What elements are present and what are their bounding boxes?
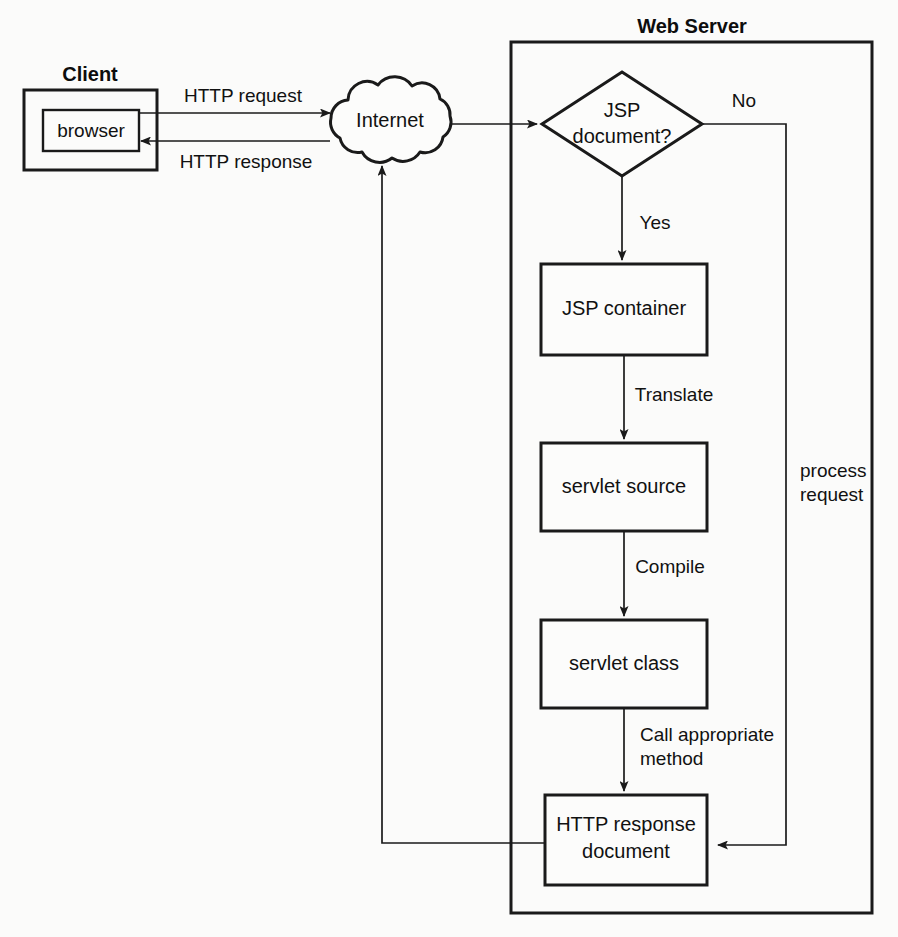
call-method-edge-group: Call appropriate method xyxy=(624,708,774,791)
internet-cloud: Internet xyxy=(331,77,452,163)
http-response-document-node: HTTP response document xyxy=(545,795,707,885)
http-response-document-label-line2: document xyxy=(582,840,670,862)
jsp-container-node: JSP container xyxy=(541,264,707,355)
client-group-title: Client xyxy=(62,63,118,85)
call-method-edge-label-line1: Call appropriate xyxy=(640,724,774,745)
response-feedback-edge xyxy=(382,166,545,843)
http-response-edge-label: HTTP response xyxy=(180,151,313,172)
jsp-document-decision-label-line1: JSP xyxy=(604,99,641,121)
decision-no-label: No xyxy=(732,90,756,111)
compile-edge-label: Compile xyxy=(635,556,705,577)
browser-node-label: browser xyxy=(57,120,125,141)
figure-canvas: Client browser HTTP request HTTP respons… xyxy=(0,0,898,937)
process-request-label-line1: process xyxy=(800,460,867,481)
call-method-edge-label-line2: method xyxy=(640,748,703,769)
http-response-document-label-line1: HTTP response xyxy=(556,813,696,835)
client-network-edges: HTTP request HTTP response xyxy=(139,85,330,172)
process-request-label-line2: request xyxy=(800,484,864,505)
internet-cloud-label: Internet xyxy=(356,109,424,131)
servlet-class-node-label: servlet class xyxy=(569,652,679,674)
jsp-document-decision-shape xyxy=(542,72,702,176)
jsp-document-decision: JSP document? xyxy=(542,72,702,176)
compile-edge-group: Compile xyxy=(624,531,705,616)
http-request-edge-label: HTTP request xyxy=(184,85,303,106)
client-group: Client browser xyxy=(24,63,157,170)
jsp-flow-diagram: Client browser HTTP request HTTP respons… xyxy=(0,0,898,937)
web-server-group-title: Web Server xyxy=(637,15,747,37)
jsp-document-decision-label-line2: document? xyxy=(573,125,672,147)
servlet-source-node: servlet source xyxy=(541,443,707,531)
translate-edge-group: Translate xyxy=(624,355,713,439)
servlet-source-node-label: servlet source xyxy=(562,475,687,497)
servlet-class-node: servlet class xyxy=(541,620,707,708)
translate-edge-label: Translate xyxy=(635,384,714,405)
yes-branch: Yes xyxy=(622,176,671,260)
jsp-container-node-label: JSP container xyxy=(562,297,686,319)
decision-yes-label: Yes xyxy=(640,212,671,233)
